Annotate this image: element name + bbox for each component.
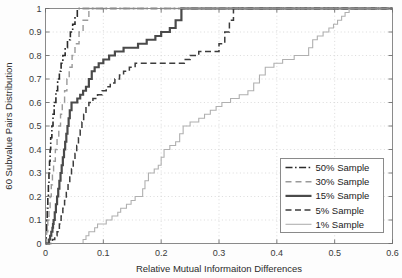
chart-svg: 00.10.20.30.40.50.600.10.20.30.40.50.60.…: [0, 0, 402, 278]
y-tick-label: 0.2: [29, 192, 42, 202]
x-tick-label: 0.3: [213, 248, 226, 258]
y-tick-label: 0.4: [29, 145, 42, 155]
x-tick-label: 0.2: [155, 248, 168, 258]
y-axis-title: 60 Subvalue Pairs Distribution: [3, 62, 14, 189]
legend-label-2: 15% Sample: [316, 190, 370, 201]
y-tick-label: 0.8: [29, 51, 42, 61]
x-tick-label: 0.1: [97, 248, 110, 258]
y-tick-label: 0.5: [29, 121, 42, 131]
y-tick-label: 0: [36, 239, 41, 249]
y-tick-label: 1: [36, 4, 41, 14]
x-tick-label: 0: [43, 248, 48, 258]
y-tick-label: 0.3: [29, 168, 42, 178]
x-axis-title: Relative Mutual Informaiton Differences: [136, 263, 302, 274]
y-tick-label: 0.1: [29, 215, 42, 225]
legend-label-1: 30% Sample: [316, 176, 370, 187]
legend-label-0: 50% Sample: [316, 162, 370, 173]
x-tick-label: 0.6: [386, 248, 399, 258]
x-tick-label: 0.4: [271, 248, 284, 258]
legend-label-4: 1% Sample: [316, 219, 365, 230]
figure-container: 00.10.20.30.40.50.600.10.20.30.40.50.60.…: [0, 0, 402, 278]
y-tick-label: 0.6: [29, 98, 42, 108]
legend-label-3: 5% Sample: [316, 205, 365, 216]
x-tick-label: 0.5: [328, 248, 341, 258]
y-tick-label: 0.9: [29, 27, 42, 37]
y-tick-label: 0.7: [29, 74, 42, 84]
